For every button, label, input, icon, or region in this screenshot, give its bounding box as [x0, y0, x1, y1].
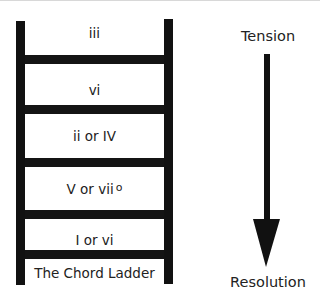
resolution-label: Resolution	[226, 273, 310, 291]
down-arrow-icon	[0, 0, 320, 305]
